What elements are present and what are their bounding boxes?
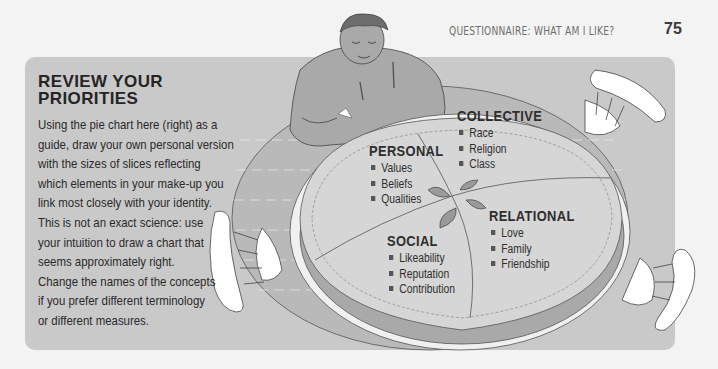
slice-personal: PERSONAL Values Beliefs Qualities bbox=[369, 142, 456, 208]
slice-relational: RELATIONAL Love Family Friendship bbox=[489, 207, 589, 273]
panel-body-text: Using the pie chart here (right) as a gu… bbox=[38, 115, 268, 331]
slice-item: Race bbox=[459, 126, 542, 142]
body-line: or different measures. bbox=[38, 311, 236, 331]
slice-item: Beliefs bbox=[371, 177, 444, 193]
slice-social: SOCIAL Likeability Reputation Contributi… bbox=[387, 232, 466, 298]
slice-heading: RELATIONAL bbox=[489, 207, 575, 224]
panel-title: REVIEW YOUR PRIORITIES bbox=[38, 73, 163, 107]
slice-item: Class bbox=[459, 157, 542, 173]
body-line: your intuition to draw a chart that bbox=[38, 233, 236, 253]
slice-item: Friendship bbox=[491, 257, 575, 273]
body-line: This is not an exact science: use bbox=[38, 213, 236, 233]
body-line: link most closely with your identity. bbox=[38, 193, 236, 213]
body-line: if you prefer different terminology bbox=[38, 291, 236, 311]
body-line: Change the names of the concepts bbox=[38, 272, 236, 292]
chair-icon bbox=[622, 249, 695, 330]
slice-item: Values bbox=[371, 161, 444, 177]
slice-item: Qualities bbox=[371, 192, 444, 208]
body-line: guide, draw your own personal version bbox=[38, 135, 236, 155]
chair-icon bbox=[585, 70, 666, 135]
title-line-1: REVIEW YOUR bbox=[38, 73, 163, 90]
body-line: which elements in your make-up you bbox=[38, 174, 236, 194]
slice-item: Reputation bbox=[389, 267, 455, 283]
slice-heading: SOCIAL bbox=[387, 232, 455, 249]
slice-item: Religion bbox=[459, 142, 542, 158]
title-line-2: PRIORITIES bbox=[38, 90, 163, 107]
slice-heading: PERSONAL bbox=[369, 142, 443, 159]
slice-item: Family bbox=[491, 242, 575, 258]
slice-collective: COLLECTIVE Race Religion Class bbox=[457, 107, 556, 173]
slice-item: Contribution bbox=[389, 282, 455, 298]
body-line: with the sizes of slices reflecting bbox=[38, 154, 236, 174]
body-line: Using the pie chart here (right) as a bbox=[38, 115, 236, 135]
body-line: seems approximately right. bbox=[38, 252, 236, 272]
slice-heading: COLLECTIVE bbox=[457, 107, 542, 124]
slice-item: Love bbox=[491, 226, 575, 242]
slice-item: Likeability bbox=[389, 251, 455, 267]
